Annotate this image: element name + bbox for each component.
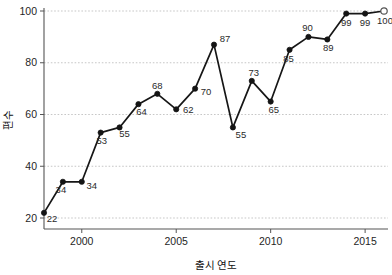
- data-point-label-2001: 53: [96, 135, 107, 146]
- y-tick-label-80: 80: [25, 56, 37, 68]
- data-point-label-1998: 22: [47, 213, 58, 224]
- data-marker-2013: [325, 37, 330, 42]
- data-point-label-2008: 55: [236, 129, 247, 140]
- data-point-label-2006: 70: [201, 86, 212, 97]
- data-point-labels-group: 223434535564686270875573658590899999100: [47, 15, 392, 224]
- data-point-label-2013: 89: [323, 42, 334, 53]
- data-point-label-2004: 68: [152, 80, 163, 91]
- x-axis-title: 출시 연도: [195, 259, 238, 271]
- y-tick-label-60: 60: [25, 108, 37, 120]
- data-marker-2009: [249, 78, 254, 83]
- x-tick-label-2000: 2000: [70, 235, 94, 247]
- x-tick-group: 2000200520102015: [70, 229, 377, 247]
- data-marker-2016: [381, 8, 387, 14]
- y-tick-label-40: 40: [25, 160, 37, 172]
- data-point-label-2010: 65: [268, 104, 279, 115]
- data-point-label-1999: 34: [56, 184, 67, 195]
- line-chart: 20406080100 2000200520102015 22343453556…: [0, 0, 392, 275]
- data-point-label-2000: 34: [86, 180, 97, 191]
- x-tick-label-2005: 2005: [165, 235, 189, 247]
- data-marker-2011: [287, 47, 292, 52]
- data-point-label-2009: 73: [248, 67, 259, 78]
- y-tick-group: 20406080100: [19, 5, 44, 224]
- y-axis-title: 편수: [2, 110, 14, 130]
- chart-container: 20406080100 2000200520102015 22343453556…: [0, 0, 392, 275]
- data-point-label-2012: 90: [302, 22, 313, 33]
- data-point-label-2015: 99: [360, 17, 371, 28]
- x-tick-label-2010: 2010: [259, 235, 283, 247]
- data-point-label-2007: 87: [220, 33, 231, 44]
- data-marker-2000: [79, 179, 84, 184]
- data-point-label-2002: 55: [119, 128, 130, 139]
- data-marker-2004: [155, 91, 160, 96]
- axes-group: [44, 8, 388, 229]
- data-marker-2005: [174, 107, 179, 112]
- data-point-label-2003: 64: [136, 106, 147, 117]
- x-tick-label-2015: 2015: [353, 235, 377, 247]
- data-point-label-2005: 62: [183, 104, 194, 115]
- data-point-label-2016: 100: [377, 15, 392, 26]
- data-point-label-2011: 85: [283, 53, 294, 64]
- data-marker-2012: [306, 34, 311, 39]
- data-marker-2015: [363, 11, 368, 16]
- data-marker-2014: [344, 11, 349, 16]
- data-point-label-2014: 99: [341, 17, 352, 28]
- y-tick-label-20: 20: [25, 212, 37, 224]
- y-tick-label-100: 100: [19, 5, 37, 17]
- data-marker-2007: [211, 42, 216, 47]
- data-marker-2006: [193, 86, 198, 91]
